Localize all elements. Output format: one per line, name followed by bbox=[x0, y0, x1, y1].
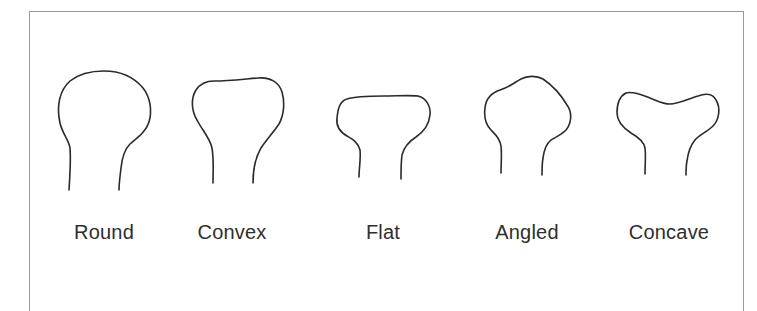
angled-head-shape bbox=[485, 76, 571, 175]
label-flat: Flat bbox=[366, 221, 400, 244]
label-angled: Angled bbox=[495, 221, 558, 244]
label-concave: Concave bbox=[629, 221, 709, 244]
convex-head-shape bbox=[192, 78, 283, 183]
round-head-shape bbox=[58, 71, 150, 190]
concave-head-shape bbox=[617, 92, 719, 175]
flat-head-shape bbox=[337, 96, 430, 179]
label-round: Round bbox=[74, 221, 134, 244]
label-convex: Convex bbox=[197, 221, 266, 244]
